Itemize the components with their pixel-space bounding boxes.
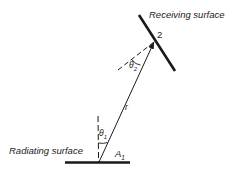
theta1-label: θ1 bbox=[99, 129, 107, 140]
area-a1-subscript: 1 bbox=[121, 154, 125, 161]
area-a1-label: A1 bbox=[115, 149, 125, 161]
theta2-subscript: 2 bbox=[134, 66, 137, 72]
theta2-label: θ2 bbox=[129, 61, 137, 72]
radiating-surface-label: Radiating surface bbox=[9, 146, 83, 156]
receiving-surface-label: Receiving surface bbox=[149, 10, 225, 20]
radiation-view-factor-diagram: Receiving surface 2 θ2 r θ1 Radiating su… bbox=[0, 0, 240, 174]
theta1-subscript: 1 bbox=[104, 134, 107, 140]
theta1-arc bbox=[98, 143, 107, 144]
point-2-label: 2 bbox=[157, 30, 162, 40]
distance-r-label: r bbox=[125, 103, 128, 112]
